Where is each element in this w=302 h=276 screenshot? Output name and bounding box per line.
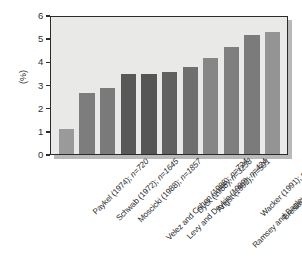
sample-size-label: n=720 (129, 157, 151, 179)
bar-slot (262, 17, 283, 154)
bar-slot (159, 17, 180, 154)
bar-slot (77, 17, 98, 154)
bar[interactable] (100, 88, 115, 154)
y-axis-tick-label: 2 (38, 104, 46, 114)
y-axis-tick-label: 5 (38, 34, 46, 44)
bar[interactable] (183, 67, 198, 154)
bar-slot (221, 17, 242, 154)
y-axis-tick-label: 4 (38, 57, 46, 67)
bar[interactable] (79, 93, 94, 154)
sample-size-label: n=470 (298, 157, 302, 179)
x-axis-tick-labels: Paykel (1974); n=720Schwab (1972); n=164… (50, 157, 288, 275)
sample-size-label: n=591 (250, 157, 272, 179)
y-axis-tick-label: 1 (38, 127, 46, 137)
figure: 0123456 (%) Paykel (1974); n=720Schwab (… (0, 0, 302, 276)
bar[interactable] (244, 35, 259, 154)
x-axis-tick-label: Paykel (1974); n=720 (91, 157, 150, 216)
bar-slot (118, 17, 139, 154)
y-axis: 0123456 (0, 16, 50, 155)
bar[interactable] (265, 32, 280, 154)
bar-slot (56, 17, 77, 154)
bar-slot (242, 17, 263, 154)
sample-size-label: n=1857 (178, 157, 203, 182)
bar[interactable] (59, 129, 74, 154)
bar-slot (180, 17, 201, 154)
bar[interactable] (141, 74, 156, 154)
bar[interactable] (224, 47, 239, 154)
bar-slot (97, 17, 118, 154)
y-axis-tick: 4 (0, 57, 50, 67)
y-axis-tick-label: 6 (38, 11, 46, 21)
y-axis-tick: 2 (0, 104, 50, 114)
bar[interactable] (203, 58, 218, 154)
y-axis-tick: 6 (0, 11, 50, 21)
y-axis-tick: 0 (0, 150, 50, 160)
bar-series (51, 17, 287, 154)
bar-slot (139, 17, 160, 154)
plot-area (50, 16, 288, 155)
bar[interactable] (121, 74, 136, 154)
bar-slot (200, 17, 221, 154)
y-axis-tick: 5 (0, 34, 50, 44)
y-axis-tick-label: 3 (38, 81, 46, 91)
y-axis-tick-label: 0 (38, 150, 46, 160)
bar[interactable] (162, 72, 177, 154)
y-axis-tick: 1 (0, 127, 50, 137)
y-axis-title: (%) (18, 70, 28, 84)
